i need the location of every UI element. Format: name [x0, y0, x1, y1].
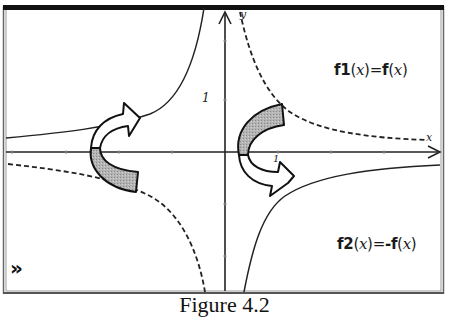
f2-rhs-paren-close: ) — [411, 235, 417, 253]
f2-label-name: f2 — [337, 235, 353, 253]
x-tick-label-1: 1 — [273, 153, 279, 164]
f1-label-name: f1 — [334, 61, 350, 79]
f2-label-rhs: -f — [385, 235, 397, 253]
f1-rhs-paren-close: ) — [402, 61, 408, 79]
f1-label-rhs-arg: x — [394, 61, 402, 79]
f2-label-rhs-arg: x — [403, 235, 411, 253]
f2-label-eq: = — [373, 235, 385, 253]
double-chevron-right-icon[interactable]: » — [10, 258, 23, 278]
x-axis-label: x — [426, 131, 432, 144]
f2-label: f2(x)=-f(x) — [337, 235, 416, 253]
f2-label-arg: x — [359, 235, 367, 253]
f1-label-eq: = — [370, 61, 382, 79]
y-axis-label: y — [240, 8, 246, 21]
figure-caption: Figure 4.2 — [0, 294, 449, 316]
f1-label: f1(x)=f(x) — [334, 61, 407, 79]
y-tick-label-1: 1 — [202, 91, 210, 105]
f1-label-arg: x — [356, 61, 364, 79]
